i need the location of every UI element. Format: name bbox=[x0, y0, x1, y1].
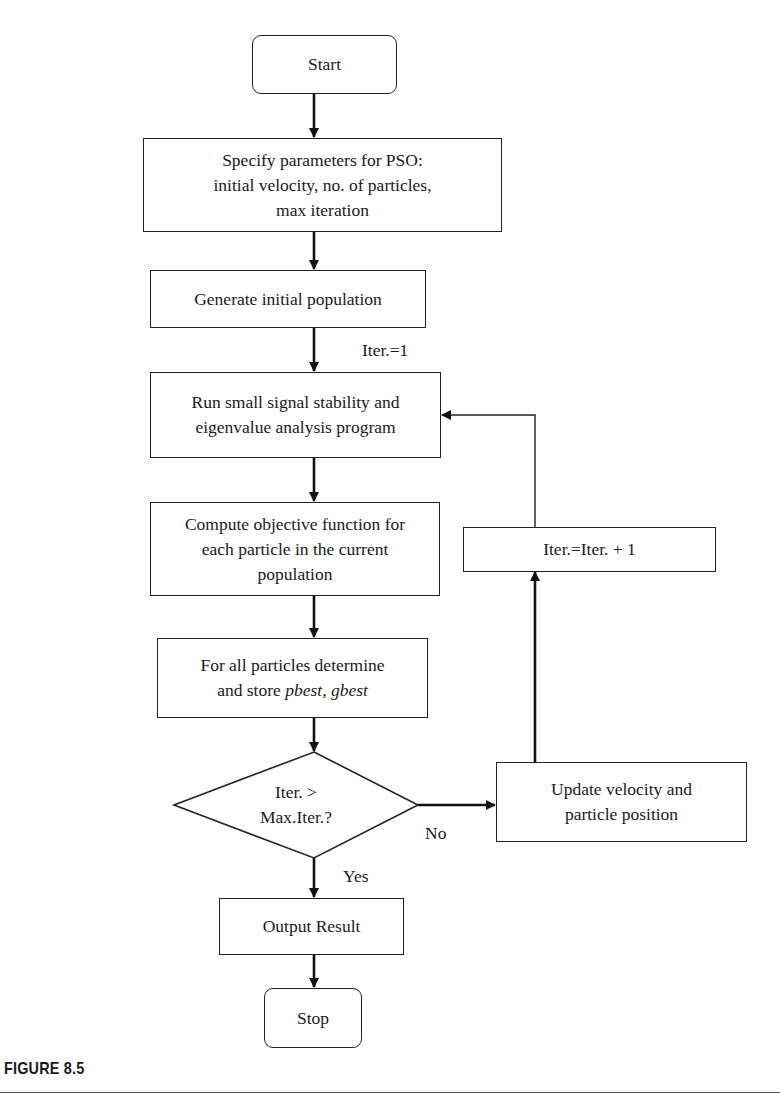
run-analysis-box: Run small signal stability and eigenvalu… bbox=[150, 372, 441, 458]
run-line-2: eigenvalue analysis program bbox=[191, 415, 399, 440]
output-result-box: Output Result bbox=[219, 898, 404, 955]
start-terminal: Start bbox=[252, 35, 397, 94]
caption-rule bbox=[0, 1092, 780, 1093]
iter-init-label: Iter.=1 bbox=[362, 340, 408, 360]
specify-line-2: initial velocity, no. of particles, bbox=[213, 173, 431, 198]
run-line-1: Run small signal stability and bbox=[191, 390, 399, 415]
determine-line-1: For all particles determine bbox=[200, 653, 384, 678]
determine-prefix: and store bbox=[217, 680, 285, 700]
increment-iter-box: Iter.=Iter. + 1 bbox=[463, 527, 716, 572]
pbest-term: pbest, bbox=[285, 680, 326, 700]
arrow-increment-run bbox=[442, 415, 535, 527]
specify-line-1: Specify parameters for PSO: bbox=[213, 148, 431, 173]
compute-objective-box: Compute objective function for each part… bbox=[150, 502, 440, 596]
decision-line-2: Max.Iter.? bbox=[260, 805, 332, 830]
generate-label: Generate initial population bbox=[194, 287, 382, 312]
compute-line-3: population bbox=[185, 562, 405, 587]
update-line-2: particle position bbox=[551, 802, 692, 827]
no-label: No bbox=[425, 823, 446, 843]
decision-label: Iter. > Max.Iter.? bbox=[174, 752, 418, 858]
increment-label: Iter.=Iter. + 1 bbox=[543, 537, 636, 562]
start-label: Start bbox=[308, 52, 341, 77]
update-line-1: Update velocity and bbox=[551, 777, 692, 802]
update-velocity-box: Update velocity and particle position bbox=[496, 762, 747, 842]
specify-line-3: max iteration bbox=[213, 198, 431, 223]
yes-label: Yes bbox=[343, 866, 368, 886]
compute-line-2: each particle in the current bbox=[185, 537, 405, 562]
stop-terminal: Stop bbox=[264, 988, 362, 1048]
output-label: Output Result bbox=[263, 914, 361, 939]
determine-best-box: For all particles determine and store pb… bbox=[157, 638, 428, 718]
generate-population-box: Generate initial population bbox=[150, 270, 426, 328]
gbest-term: gbest bbox=[327, 680, 368, 700]
compute-line-1: Compute objective function for bbox=[185, 512, 405, 537]
determine-line-2: and store pbest, gbest bbox=[200, 678, 384, 703]
specify-parameters-box: Specify parameters for PSO: initial velo… bbox=[143, 138, 502, 232]
stop-label: Stop bbox=[297, 1006, 329, 1031]
decision-line-1: Iter. > bbox=[275, 780, 317, 805]
figure-caption: FIGURE 8.5 bbox=[4, 1059, 84, 1079]
